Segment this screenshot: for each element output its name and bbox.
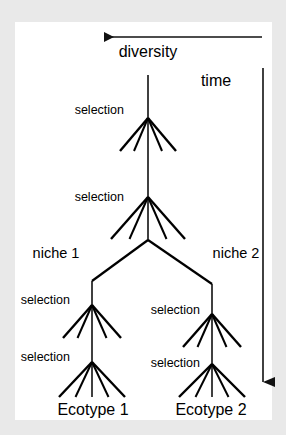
niche-2-divergence — [148, 240, 212, 284]
node-selection-5-branch-2 — [198, 314, 213, 347]
node-selection-3-branch-5 — [92, 305, 121, 338]
node-selection-4-branch-4 — [92, 362, 109, 397]
selection-label-5: selection — [151, 304, 200, 317]
diagram-canvas: diversity time niche 1 niche 2 Ecotype 1… — [0, 0, 286, 435]
selection-label-6: selection — [151, 357, 200, 370]
node-selection-6-branch-5 — [212, 364, 245, 397]
node-selection-3-branch-4 — [92, 305, 107, 338]
selection-label-3: selection — [21, 294, 70, 307]
selection-label-4: selection — [21, 351, 70, 364]
diversity-axis-label: diversity — [119, 44, 178, 60]
node-selection-6-branch-4 — [212, 364, 229, 397]
node-selection-4-branch-1 — [59, 362, 92, 397]
niche-1-label: niche 1 — [33, 246, 80, 261]
node-selection-3-branch-1 — [63, 305, 92, 338]
ecotype-2-label: Ecotype 2 — [175, 402, 246, 418]
node-selection-1-branch-4 — [148, 118, 162, 151]
axis-arrows — [104, 37, 263, 382]
node-selection-5-branch-1 — [183, 314, 212, 347]
node-selection-2-branch-2 — [130, 197, 149, 239]
node-selection-1-branch-1 — [120, 118, 148, 151]
tree-diagram-svg — [0, 0, 286, 435]
time-axis-label: time — [201, 73, 231, 89]
node-selection-5-branch-5 — [212, 314, 241, 347]
niche-2-label: niche 2 — [213, 246, 260, 261]
node-selection-3-branch-2 — [78, 305, 93, 338]
niche-1-divergence — [92, 240, 148, 281]
node-selection-2-branch-5 — [148, 197, 185, 239]
ecotype-1-label: Ecotype 1 — [57, 402, 128, 418]
node-selection-4-branch-5 — [92, 362, 125, 397]
node-selection-1-branch-5 — [148, 118, 176, 151]
selection-label-2: selection — [75, 191, 124, 204]
node-selection-1-branch-2 — [134, 118, 148, 151]
node-selection-4-branch-2 — [76, 362, 93, 397]
node-selection-2-branch-4 — [148, 197, 167, 239]
selection-label-1: selection — [75, 104, 124, 117]
node-selection-5-branch-4 — [212, 314, 227, 347]
phylogeny-branches — [59, 75, 245, 397]
